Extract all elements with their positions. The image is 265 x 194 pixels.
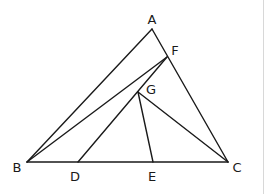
point-label-f: F	[171, 43, 178, 58]
geometry-diagram: ABCDEFG	[0, 0, 265, 194]
right-edge-divider	[263, 0, 264, 194]
point-label-g: G	[146, 82, 156, 97]
segment-gc	[138, 92, 228, 162]
labels-group: ABCDEFG	[13, 12, 242, 184]
point-label-e: E	[148, 169, 156, 184]
segment-ab	[27, 29, 152, 162]
point-label-d: D	[70, 169, 80, 184]
point-label-c: C	[232, 160, 241, 175]
segments-group	[27, 29, 228, 162]
segment-bf	[27, 57, 167, 162]
segment-df	[78, 57, 167, 162]
point-label-b: B	[13, 160, 22, 175]
point-label-a: A	[148, 12, 157, 27]
segment-ac	[152, 29, 228, 162]
